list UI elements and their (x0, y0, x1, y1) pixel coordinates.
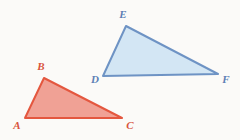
vertex-label-f: F (221, 73, 230, 85)
vertex-label-a: A (12, 119, 20, 131)
vertex-label-d: D (90, 73, 99, 85)
shapes-layer (25, 26, 218, 118)
triangle-def (103, 26, 218, 76)
geometry-figure: ABCDEF (0, 0, 240, 140)
vertex-label-e: E (118, 8, 126, 20)
vertex-label-b: B (36, 60, 44, 72)
figure-canvas: ABCDEF (0, 0, 240, 140)
vertex-label-c: C (126, 119, 134, 131)
triangle-abc (25, 78, 122, 118)
